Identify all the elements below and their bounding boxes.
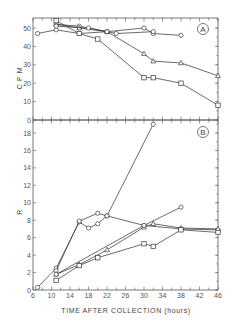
- square-marker: [54, 278, 58, 282]
- triangle-marker: [142, 51, 147, 55]
- y-tick-label: 4: [27, 252, 31, 259]
- x-tick-label: 22: [103, 292, 111, 299]
- panel-a-tag: A: [198, 24, 209, 35]
- y-tick-label: 14: [23, 164, 31, 171]
- triangle-marker: [151, 59, 156, 63]
- panel-a-y-axis-label: C P M: [16, 67, 23, 89]
- circle-marker: [151, 30, 155, 34]
- square-marker: [77, 31, 81, 35]
- circle-marker: [105, 30, 109, 34]
- series-line: [38, 124, 154, 287]
- circle-marker: [142, 223, 146, 227]
- circle-marker: [54, 272, 58, 276]
- data-series-series-4: [54, 228, 220, 283]
- circle-marker: [96, 211, 100, 215]
- triangle-marker: [105, 247, 110, 251]
- x-axis-label: TIME AFTER COLLECTION (hours): [61, 307, 190, 315]
- data-series-series-5: [54, 24, 155, 36]
- circle-marker: [151, 122, 155, 126]
- x-tick-label: 38: [177, 292, 185, 299]
- circle-marker: [77, 219, 81, 223]
- square-marker: [151, 244, 155, 248]
- circle-marker: [179, 33, 183, 37]
- figure: 01020304050 0246810121416186101418222630…: [0, 0, 232, 329]
- panel-b-y-axis-label: R: [16, 209, 23, 215]
- x-tick-label: 34: [159, 292, 167, 299]
- data-series-series-1: [36, 122, 156, 289]
- y-tick-label: 50: [23, 25, 31, 32]
- square-marker: [142, 242, 146, 246]
- x-tick-label: 10: [48, 292, 56, 299]
- square-marker: [54, 18, 58, 22]
- circle-marker: [86, 26, 90, 30]
- square-marker: [96, 256, 100, 260]
- circle-marker: [179, 205, 183, 209]
- y-tick-label: 30: [23, 61, 31, 68]
- square-marker: [96, 37, 100, 41]
- data-series-series-3: [54, 22, 221, 78]
- square-marker: [216, 230, 220, 234]
- data-series-series-4: [54, 18, 220, 107]
- circle-marker: [105, 214, 109, 218]
- y-tick-label: 16: [23, 147, 31, 154]
- x-tick-label: 30: [140, 292, 148, 299]
- x-tick-label: 6: [31, 292, 35, 299]
- circle-marker: [142, 26, 146, 30]
- x-tick-label: 26: [122, 292, 130, 299]
- square-marker: [216, 103, 220, 107]
- panel-a-tag-text: A: [200, 25, 206, 34]
- square-marker: [179, 81, 183, 85]
- circle-marker: [114, 31, 118, 35]
- y-tick-label: 6: [27, 234, 31, 241]
- circle-marker: [36, 31, 40, 35]
- circle-marker: [96, 222, 100, 226]
- y-tick-label: 12: [23, 182, 31, 189]
- x-tick-label: 42: [196, 292, 204, 299]
- data-series-series-5: [54, 205, 183, 276]
- y-tick-label: 18: [23, 130, 31, 137]
- square-marker: [142, 75, 146, 79]
- square-marker: [179, 228, 183, 232]
- panel-b-tag-text: B: [200, 128, 205, 137]
- panel-b-tag: B: [198, 127, 209, 138]
- y-tick-label: 40: [23, 43, 31, 50]
- data-series-series-1: [36, 28, 110, 36]
- square-marker: [77, 263, 81, 267]
- series-line: [56, 230, 218, 281]
- x-tick-label: 14: [66, 292, 74, 299]
- square-marker: [151, 75, 155, 79]
- y-tick-label: 0: [27, 117, 31, 124]
- circle-marker: [36, 285, 40, 289]
- panel-a: 01020304050: [23, 18, 220, 124]
- circle-marker: [86, 226, 90, 230]
- y-tick-label: 10: [23, 199, 31, 206]
- y-tick-label: 2: [27, 269, 31, 276]
- x-tick-label: 46: [214, 292, 222, 299]
- circle-marker: [54, 24, 58, 28]
- panel-b: 024681012141618610141822263034384246: [23, 120, 222, 299]
- y-tick-label: 10: [23, 98, 31, 105]
- y-tick-label: 20: [23, 80, 31, 87]
- x-tick-label: 18: [85, 292, 93, 299]
- y-tick-label: 8: [27, 217, 31, 224]
